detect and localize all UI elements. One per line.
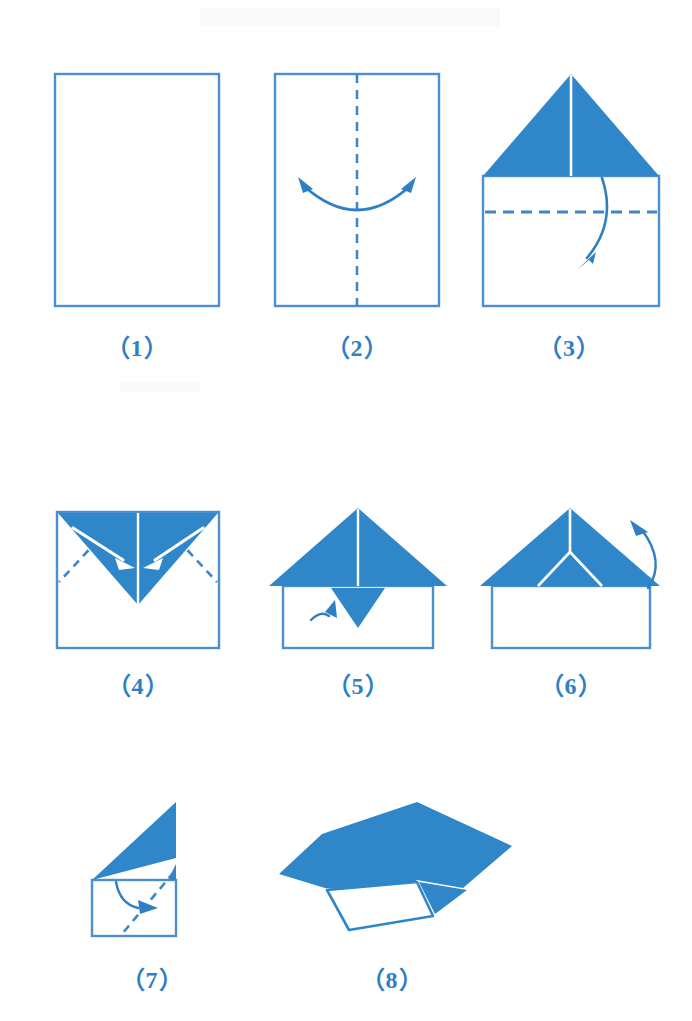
- inverted-v-figure: [43, 500, 233, 660]
- step-panel-5[interactable]: （5）: [252, 500, 464, 698]
- step-panel-2[interactable]: （2）: [252, 62, 462, 360]
- instruction-sheet: （1） （2）: [0, 0, 692, 1021]
- step-caption-2: （2）: [326, 336, 389, 360]
- side-view-wing-figure: [72, 784, 232, 954]
- step-caption-1: （1）: [106, 336, 169, 360]
- blue-wing-triangle: [92, 802, 176, 880]
- rectangle-outline: [55, 74, 219, 306]
- step-panel-8[interactable]: （8）: [252, 784, 532, 992]
- corners-folded-figure: [465, 62, 675, 322]
- step-caption-5: （5）: [327, 674, 390, 698]
- step-panel-7[interactable]: （7）: [52, 784, 252, 992]
- steps-row-3: （7） （8）: [0, 742, 692, 992]
- center-crease-figure: [257, 62, 457, 322]
- step-caption-4: （4）: [107, 674, 170, 698]
- blue-wing-body: [279, 802, 512, 896]
- steps-row-1: （1） （2）: [0, 30, 692, 360]
- step-caption-8: （8）: [361, 968, 424, 992]
- white-body-rectangle: [492, 586, 650, 648]
- small-flap-down-figure: [255, 500, 461, 660]
- plain-rectangle-figure: [37, 62, 237, 322]
- step-caption-7: （7）: [121, 968, 184, 992]
- flap-tucked-figure: [466, 500, 676, 660]
- steps-row-2: （4） （5）: [0, 448, 692, 698]
- step-caption-6: （6）: [540, 674, 603, 698]
- step-panel-1[interactable]: （1）: [22, 62, 252, 360]
- step-caption-3: （3）: [538, 336, 601, 360]
- finished-airplane-figure: [267, 784, 517, 954]
- step-panel-4[interactable]: （4）: [24, 500, 252, 698]
- white-body-rectangle: [483, 176, 659, 306]
- white-underside-panel: [327, 882, 433, 930]
- step-panel-3[interactable]: （3）: [462, 62, 677, 360]
- step-panel-6[interactable]: （6）: [464, 500, 678, 698]
